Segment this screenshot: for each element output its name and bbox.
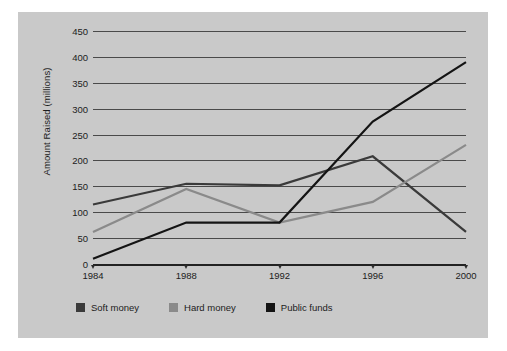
y-axis-title: Amount Raised (millions) [41, 32, 52, 212]
x-axis-tick-label: 1996 [351, 270, 395, 281]
series-line [93, 145, 466, 232]
legend-item[interactable]: Hard money [169, 302, 236, 313]
series-lines-group [93, 31, 466, 264]
x-axis-tick-marker [464, 265, 468, 269]
y-axis-tick-label: 250 [72, 129, 88, 140]
x-axis-tick: 1988 [164, 264, 208, 281]
x-axis-tick-marker [278, 265, 282, 269]
legend-item[interactable]: Public funds [266, 302, 333, 313]
x-axis-tick-marker [91, 265, 95, 269]
x-axis-tick-label: 2000 [444, 270, 488, 281]
series-line [93, 156, 466, 232]
legend-item[interactable]: Soft money [76, 302, 139, 313]
y-axis-tick-label: 300 [72, 103, 88, 114]
x-axis-tick: 2000 [444, 264, 488, 281]
legend-swatch-icon [169, 303, 178, 312]
legend-swatch-icon [76, 303, 85, 312]
y-axis-tick-label: 100 [72, 207, 88, 218]
x-axis-tick: 1984 [71, 264, 115, 281]
legend-label: Soft money [91, 302, 139, 313]
y-axis-tick-label: 50 [77, 233, 88, 244]
x-axis-tick: 1992 [258, 264, 302, 281]
y-axis-tick-label: 200 [72, 155, 88, 166]
y-axis-tick-label: 400 [72, 51, 88, 62]
x-axis-tick-label: 1992 [258, 270, 302, 281]
y-axis-tick-label: 150 [72, 181, 88, 192]
series-line [93, 62, 466, 259]
x-axis-tick-marker [371, 265, 375, 269]
x-axis-tick-marker [184, 265, 188, 269]
legend-label: Hard money [184, 302, 236, 313]
legend-swatch-icon [266, 303, 275, 312]
plot-area: 050100150200250300350400450 198419881992… [93, 31, 466, 264]
y-axis-tick-label: 350 [72, 77, 88, 88]
x-axis-tick: 1996 [351, 264, 395, 281]
chart-figure: Amount Raised (millions) 050100150200250… [18, 12, 488, 338]
x-axis-tick-label: 1988 [164, 270, 208, 281]
chart-legend: Soft moneyHard moneyPublic funds [76, 302, 333, 313]
legend-label: Public funds [281, 302, 333, 313]
x-axis-tick-label: 1984 [71, 270, 115, 281]
y-axis-tick-label: 450 [72, 26, 88, 37]
